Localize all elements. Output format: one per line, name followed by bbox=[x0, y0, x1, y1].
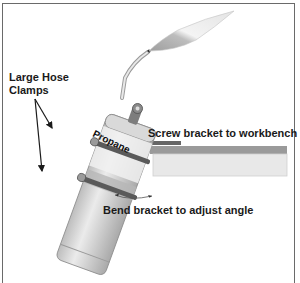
propane-tank bbox=[49, 93, 168, 276]
screw-bracket-label: Screw bracket to workbench bbox=[148, 127, 297, 140]
workbench bbox=[150, 146, 287, 176]
bend-bracket-label: Bend bracket to adjust angle bbox=[103, 204, 253, 217]
clamp-arrows bbox=[35, 99, 52, 171]
workbench-front bbox=[153, 154, 287, 176]
flame bbox=[149, 11, 234, 51]
hose-clamps-label: Large Hose Clamps bbox=[9, 71, 79, 97]
torch-tube bbox=[122, 49, 151, 98]
workbench-top bbox=[150, 146, 287, 154]
